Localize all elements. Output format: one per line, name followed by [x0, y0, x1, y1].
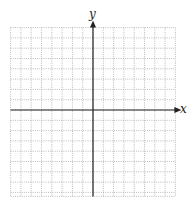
x-axis-label: x — [180, 102, 187, 116]
y-axis-label: y — [89, 7, 96, 21]
coordinate-grid — [0, 0, 194, 205]
y-axis-arrow-icon — [90, 21, 96, 28]
